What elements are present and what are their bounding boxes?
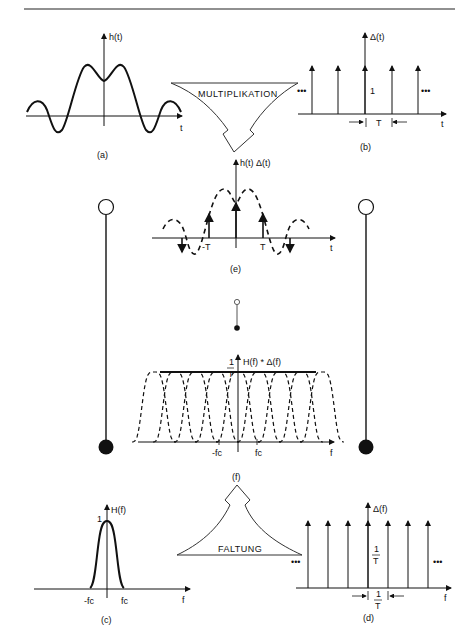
panel-d-height-num: 1 [374, 544, 379, 554]
shifted-spectrum-copy [279, 372, 323, 442]
filled-circle-icon [234, 325, 240, 331]
panel-c-right-tick: fc [121, 596, 129, 606]
panel-a-x-label: t [180, 123, 183, 133]
filled-circle-icon [99, 440, 114, 455]
panel-e-right-tick: T [260, 242, 266, 252]
panel-f-axis-label: H(f) * Δ(f) [243, 357, 281, 367]
panel-b-caption: (b) [360, 142, 371, 152]
multiplication-label: MULTIPLIKATION [198, 89, 278, 99]
panel-a-caption: (a) [97, 150, 108, 160]
panel-b-x-label: t [441, 119, 444, 129]
panel-d-x-label: f [444, 593, 447, 603]
open-circle-icon [359, 200, 374, 215]
shifted-spectrum-copy [258, 372, 302, 442]
fourier-pair-center [234, 299, 240, 330]
panel-d-ellipsis-left: ••• [291, 557, 300, 567]
panel-d: Δ(f) 1 T ••• ••• 1 T f (d) [291, 503, 451, 623]
open-circle-icon [99, 200, 114, 215]
panel-b-ellipsis-left: ••• [297, 86, 306, 96]
panel-f-caption: (f) [232, 472, 241, 482]
panel-f-height-num: 1 [229, 357, 234, 367]
shifted-spectrum-copy [153, 372, 197, 442]
fourier-pair-left [99, 200, 114, 455]
fourier-pair-right [359, 200, 374, 455]
panel-b-axis-label: Δ(t) [370, 32, 385, 42]
panel-e-axis-label: h(t) Δ(t) [240, 158, 271, 168]
panel-c-caption: (c) [101, 615, 112, 625]
panel-a-axis-label: h(t) [109, 32, 123, 42]
panel-e: h(t) Δ(t) -T T t (e) [152, 158, 335, 274]
shifted-spectrum-copy [300, 372, 344, 442]
panel-d-spacing-num: 1 [376, 589, 381, 599]
panel-f: H(f) * Δ(f) 1 T -fc fc f (f) [132, 355, 344, 482]
panel-e-caption: (e) [230, 264, 241, 274]
panel-c: H(f) 1 -fc fc f (c) [34, 505, 190, 625]
panel-d-axis-label: Δ(f) [373, 504, 388, 514]
panel-b-height-label: 1 [370, 86, 375, 96]
panel-d-ellipsis-right: ••• [433, 557, 442, 567]
panel-c-left-tick: -fc [84, 596, 94, 606]
panel-b-ellipsis-right: ••• [421, 86, 430, 96]
shifted-spectrum-copy [195, 372, 239, 442]
panel-d-spacing-den: T [375, 601, 381, 611]
panel-f-height-den: T [228, 369, 234, 379]
panel-f-x-label: f [330, 448, 333, 458]
panel-f-right-tick: fc [255, 448, 263, 458]
sampling-diagram: h(t) t (a) Δ(t) 1 ••• ••• T t (b) MULTIP… [0, 0, 475, 640]
panel-d-caption: (d) [363, 613, 374, 623]
panel-d-height-den: T [373, 556, 379, 566]
panel-e-x-label: t [330, 243, 333, 253]
convolution-arrow: FALTUNG [177, 485, 302, 555]
convolution-label: FALTUNG [218, 544, 262, 554]
panel-c-height-label: 1 [97, 514, 102, 524]
panel-f-left-tick: -fc [212, 448, 222, 458]
open-circle-icon [234, 299, 239, 304]
panel-b-spacing-label: T [376, 118, 382, 128]
panel-e-left-tick: -T [202, 242, 211, 252]
panel-a: h(t) t (a) [26, 32, 183, 160]
panel-c-x-label: f [182, 595, 185, 605]
filled-circle-icon [359, 440, 374, 455]
panel-c-axis-label: H(f) [111, 505, 126, 515]
multiplication-arrow: MULTIPLIKATION [171, 83, 298, 152]
shifted-spectrum-copy [174, 372, 218, 442]
shifted-spectrum-copy [132, 372, 176, 442]
shifted-spectrum-copy [237, 372, 281, 442]
panel-b: Δ(t) 1 ••• ••• T t (b) [297, 32, 446, 152]
